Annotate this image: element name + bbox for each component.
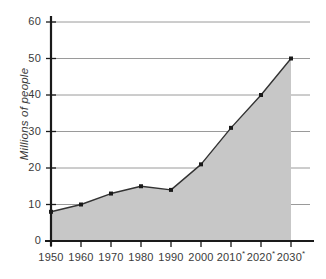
y-axis-tick-label: 20 xyxy=(15,161,41,173)
y-axis-tick-label: 60 xyxy=(15,15,41,27)
y-axis-tick-label: 0 xyxy=(15,234,41,246)
y-axis-tick-label: 10 xyxy=(15,198,41,210)
area-fill xyxy=(51,59,291,242)
data-point-marker xyxy=(289,57,293,61)
chart-plot-area xyxy=(0,0,326,279)
data-point-marker xyxy=(169,188,173,192)
data-point-marker xyxy=(79,203,83,207)
data-point-marker xyxy=(259,93,263,97)
area-series-group xyxy=(51,59,291,242)
x-axis-tick-label: 2030* xyxy=(271,251,311,263)
data-point-marker xyxy=(49,210,53,214)
data-point-marker xyxy=(229,126,233,130)
data-point-marker xyxy=(199,162,203,166)
y-axis-tick-label: 30 xyxy=(15,125,41,137)
chart-container: Millions of people 0102030405060 1950196… xyxy=(0,0,326,279)
y-axis-tick-label: 40 xyxy=(15,88,41,100)
y-axis-tick-label: 50 xyxy=(15,52,41,64)
data-point-marker xyxy=(109,192,113,196)
data-point-marker xyxy=(139,184,143,188)
